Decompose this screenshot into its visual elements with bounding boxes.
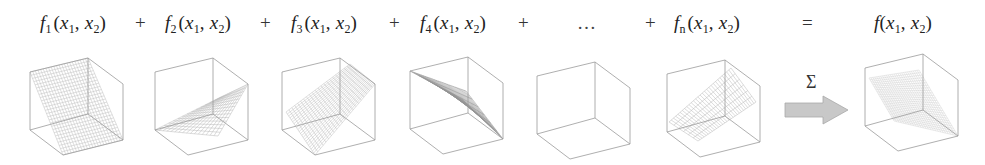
- surface-plot-f4: [410, 57, 503, 154]
- surface-plot-f2: [155, 58, 248, 155]
- surface-plot-f3: [282, 58, 375, 155]
- surface-plots: [0, 0, 985, 165]
- surface-plot-f1: [30, 58, 123, 155]
- surface-plot-f: [865, 54, 958, 151]
- sigma-symbol: Σ: [806, 72, 816, 93]
- surface-plot-f5: [537, 62, 630, 159]
- sum-arrow-icon: [785, 96, 848, 124]
- surface-plot-fn: [667, 60, 760, 157]
